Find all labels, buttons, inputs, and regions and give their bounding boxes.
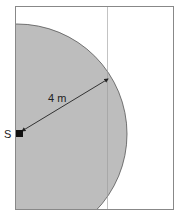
source-marker (16, 130, 23, 137)
source-label: S (4, 128, 11, 140)
diagram-canvas: S 4 m (0, 0, 179, 221)
radius-label: 4 m (48, 92, 66, 104)
